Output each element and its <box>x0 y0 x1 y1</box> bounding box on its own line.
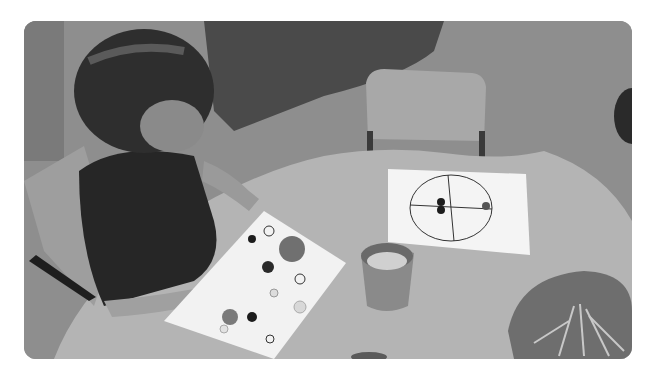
button <box>220 325 228 333</box>
button <box>270 289 278 297</box>
photo: A young girl with a braided hairstyle si… <box>24 21 632 359</box>
background-shelf <box>24 21 64 161</box>
button <box>294 301 306 313</box>
button <box>437 198 445 206</box>
hand-shadow <box>222 309 238 325</box>
face <box>140 100 204 152</box>
scene-illustration <box>24 21 632 359</box>
large-button <box>279 236 305 262</box>
button <box>482 202 490 210</box>
button <box>247 312 257 322</box>
empty-chair <box>366 69 486 141</box>
button <box>248 235 256 243</box>
quartered-circle-board <box>388 169 530 255</box>
button <box>262 261 274 273</box>
button <box>437 206 445 214</box>
cup-buttons <box>367 252 407 270</box>
